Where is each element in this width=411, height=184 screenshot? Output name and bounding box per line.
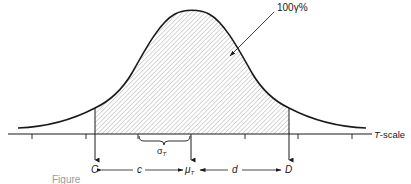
sigma-label: σT bbox=[157, 146, 168, 157]
sigma-brace bbox=[139, 136, 190, 145]
lower-bound-label: C bbox=[91, 164, 99, 175]
axis-label: T-scale bbox=[374, 129, 405, 140]
mean-label: μT bbox=[184, 164, 195, 176]
normal-curve-diagram: σT 100γ% T-scale C c μT d D bbox=[0, 0, 411, 184]
figure-caption: Figure bbox=[52, 174, 80, 184]
left-distance-label: c bbox=[137, 164, 142, 175]
axis-ticks bbox=[32, 134, 352, 139]
shaded-confidence-area bbox=[95, 10, 289, 134]
area-percentage-label: 100γ% bbox=[277, 2, 308, 13]
upper-bound-label: D bbox=[285, 164, 292, 175]
right-distance-label: d bbox=[232, 164, 238, 175]
area-leader-arrow bbox=[230, 12, 274, 56]
